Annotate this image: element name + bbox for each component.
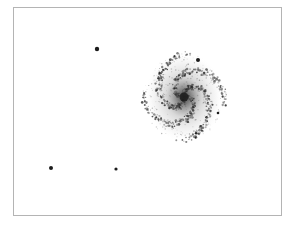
star <box>49 166 53 170</box>
star <box>217 112 220 115</box>
star <box>196 58 200 62</box>
star <box>95 47 99 51</box>
galaxy-image <box>0 0 296 226</box>
spiral-galaxy <box>141 51 227 143</box>
galaxy-core <box>180 93 189 102</box>
star <box>114 167 117 170</box>
